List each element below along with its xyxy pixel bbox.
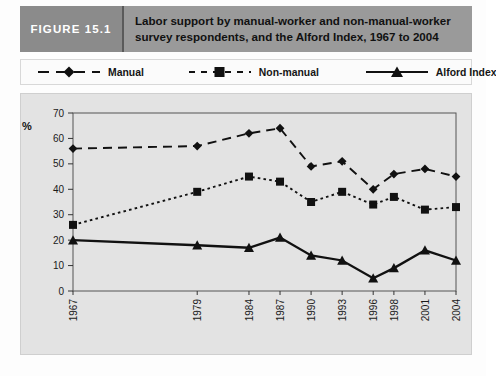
- legend-label-alford-index: Alford Index: [436, 67, 496, 78]
- legend-sample-non-manual: [189, 65, 251, 79]
- x-axis-tick-label: 2004: [451, 299, 462, 322]
- x-axis-tick-label: 1993: [337, 299, 348, 322]
- y-axis-tick-label: 60: [53, 133, 65, 144]
- data-point: [420, 245, 430, 254]
- figure-title-line-1: Labor support by manual-worker and non-m…: [135, 13, 466, 30]
- data-point: [275, 233, 285, 242]
- x-axis-tick-label: 1990: [306, 299, 317, 322]
- data-point: [245, 129, 254, 138]
- x-axis-tick-label: 1998: [389, 299, 400, 322]
- y-axis-tick-label: 10: [53, 260, 65, 271]
- legend-label-manual: Manual: [108, 67, 144, 78]
- series-line: [73, 128, 456, 189]
- figure-number-tag: FIGURE 15.1: [20, 6, 124, 52]
- figure-title-line-2: survey respondents, and the Alford Index…: [135, 29, 466, 46]
- figure-title-text: Labor support by manual-worker and non-m…: [124, 6, 472, 52]
- data-point: [193, 142, 202, 151]
- x-axis-tick-label: 1979: [192, 299, 203, 322]
- legend-label-non-manual: Non-manual: [259, 67, 319, 78]
- x-axis-tick-label: 1996: [368, 299, 379, 322]
- x-axis-tick-label: 1967: [68, 299, 79, 322]
- legend-sample-alford-index: [366, 65, 428, 79]
- x-axis-tick-label: 2001: [420, 299, 431, 322]
- data-point: [307, 198, 315, 206]
- data-point: [390, 193, 398, 201]
- data-point: [338, 188, 346, 196]
- data-point: [193, 188, 201, 196]
- y-axis-label: %: [22, 120, 32, 132]
- data-point: [338, 157, 347, 166]
- data-point: [276, 178, 284, 186]
- legend-item-non-manual: Non-manual: [189, 60, 319, 84]
- data-point: [452, 172, 461, 181]
- x-axis-tick-label: 1987: [275, 299, 286, 322]
- data-point: [69, 221, 77, 229]
- x-axis-tick-label: 1984: [244, 299, 255, 322]
- data-point: [421, 165, 430, 174]
- data-point: [245, 173, 253, 181]
- figure-number-text: FIGURE 15.1: [30, 23, 111, 35]
- legend-item-alford-index: Alford Index: [366, 60, 496, 84]
- series-alford-index: [68, 233, 461, 283]
- chart-container: 0102030405060701967197919841987199019931…: [20, 93, 472, 355]
- data-point: [421, 206, 429, 214]
- y-axis-tick-label: 0: [58, 286, 64, 297]
- series-manual: [69, 124, 461, 194]
- chart-legend: Manual Non-manual Alford Index: [20, 59, 472, 85]
- y-axis-tick-label: 50: [53, 158, 65, 169]
- data-point: [307, 162, 316, 171]
- data-point: [369, 201, 377, 209]
- legend-sample-manual: [38, 65, 100, 79]
- legend-item-manual: Manual: [38, 60, 144, 84]
- series-non-manual: [69, 173, 460, 229]
- line-chart: 0102030405060701967197919841987199019931…: [21, 94, 471, 354]
- y-axis-tick-label: 40: [53, 184, 65, 195]
- data-point: [452, 203, 460, 211]
- figure-title-banner: FIGURE 15.1 Labor support by manual-work…: [20, 6, 472, 52]
- y-axis-tick-label: 30: [53, 209, 65, 220]
- y-axis-tick-label: 20: [53, 235, 65, 246]
- data-point: [69, 144, 78, 153]
- series-line: [73, 177, 456, 225]
- y-axis-tick-label: 70: [53, 108, 65, 119]
- data-point: [389, 263, 399, 272]
- data-point: [368, 273, 378, 282]
